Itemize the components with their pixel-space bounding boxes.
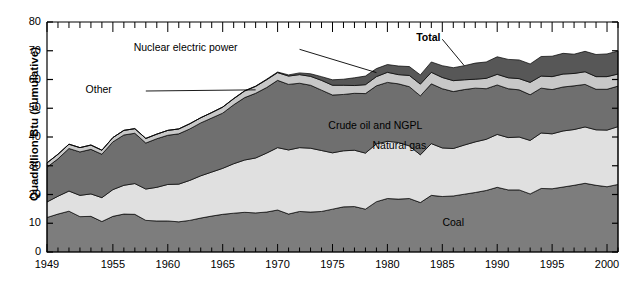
series-annotation-natural-gas: Natural gas [372,139,426,151]
chart-plot-area [0,0,636,284]
annotation-leader-line [442,39,464,65]
series-annotation-nuclear-electric-power: Nuclear electric power [134,41,238,53]
energy-production-chart: Quadrillion Btu (cumulative) 01020304050… [0,0,636,284]
y-tick-label: 70 [13,44,41,56]
x-tick-label: 1960 [148,258,188,270]
x-tick-label: 1995 [532,258,572,270]
x-tick-label: 1949 [27,258,67,270]
x-tick-label: 1985 [422,258,462,270]
annotation-leader-line [146,90,256,91]
y-tick-label: 50 [13,101,41,113]
y-tick-label: 30 [13,159,41,171]
series-annotation-crude-oil-and-ngpl: Crude oil and NGPL [328,119,422,131]
y-tick-label: 10 [13,216,41,228]
x-tick-label: 1955 [93,258,133,270]
x-tick-label: 1970 [258,258,298,270]
y-tick-label: 40 [13,130,41,142]
y-tick-label: 60 [13,73,41,85]
annotation-leader-line [300,49,377,72]
series-annotation-coal: Coal [442,216,464,228]
y-tick-label: 80 [13,15,41,27]
x-tick-label: 1990 [477,258,517,270]
y-tick-label: 20 [13,188,41,200]
series-annotation-other: Other [86,83,112,95]
x-tick-label: 1975 [313,258,353,270]
y-tick-label: 0 [13,245,41,257]
series-annotation-total: Total [416,31,440,43]
x-tick-label: 2000 [587,258,627,270]
x-tick-label: 1965 [203,258,243,270]
x-tick-label: 1980 [367,258,407,270]
